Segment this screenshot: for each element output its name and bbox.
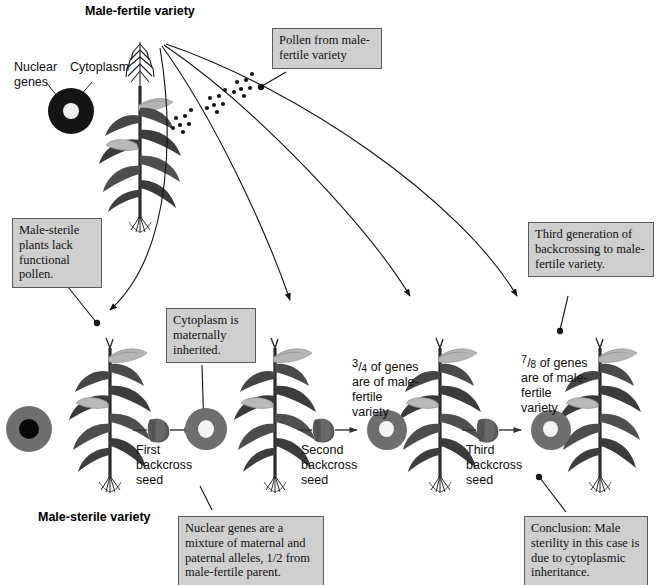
cell-male-sterile [6, 406, 52, 452]
callout-pollen: Pollen from male-fertile variety [272, 28, 382, 69]
callout-cytoplasm-maternal: Cytoplasm is maternally inherited. [166, 308, 256, 363]
callout-male-sterile: Male-sterile plants lack functional poll… [12, 218, 102, 288]
seed-label-third: Third backcross seed [466, 443, 522, 488]
gene-fraction-seven-eighths: 7/8 of genes are of male- fertile variet… [521, 338, 588, 416]
callout-conclusion: Conclusion: Male sterility in this case … [524, 516, 648, 585]
pollination-arrows [110, 44, 517, 310]
callout-third-generation: Third generation of backcrossing to male… [528, 222, 654, 277]
seed-2 [313, 419, 334, 442]
illustration-layer [0, 0, 661, 585]
key-cell-diagram [48, 88, 94, 134]
cell-backcross-3 [531, 410, 571, 450]
seed-1 [148, 419, 169, 442]
callout-nuclear-mixture: Nuclear genes are a mixture of maternal … [178, 516, 324, 585]
seed-label-first: First backcross seed [136, 443, 192, 488]
title-male-sterile: Male-sterile variety [38, 510, 151, 524]
pollen-cluster-3 [232, 72, 254, 98]
seed-label-second: Second backcross seed [301, 443, 357, 488]
figure-canvas: Male-fertile variety Male-sterile variet… [0, 0, 661, 585]
key-label-nuclear-genes: Nuclear genes [14, 60, 57, 90]
title-male-fertile: Male-fertile variety [85, 4, 195, 18]
pollen-cluster-1 [171, 108, 193, 134]
seed-3 [477, 419, 498, 442]
pollen-cluster-2 [205, 88, 227, 114]
gene-fraction-three-quarters: 3/4 of genes are of male- fertile variet… [352, 342, 419, 420]
key-label-cytoplasm: Cytoplasm [70, 60, 129, 75]
